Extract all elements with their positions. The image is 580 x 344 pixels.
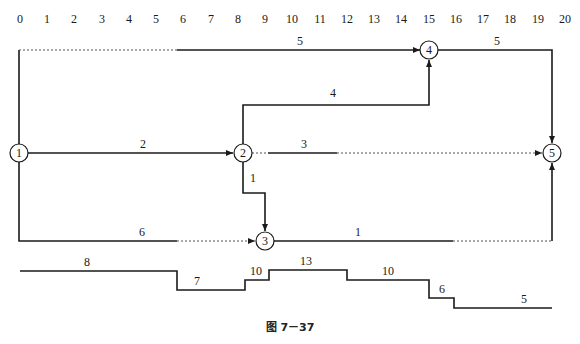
tick-4: 4 xyxy=(126,12,132,26)
activity-1-3-label: 6 xyxy=(139,225,145,239)
activity-1-2: 2 xyxy=(28,137,233,153)
activity-2-3: 1 xyxy=(243,162,265,231)
tick-10: 10 xyxy=(286,12,298,26)
activity-1-4: 5 xyxy=(19,34,420,145)
tick-17: 17 xyxy=(477,12,489,26)
node-5: 5 xyxy=(543,144,561,162)
activity-2-3-label: 1 xyxy=(250,171,256,185)
resource-label-3: 13 xyxy=(300,254,312,268)
time-scaled-network-diagram: 0 1 2 3 4 5 6 7 8 9 10 11 12 13 14 15 16… xyxy=(0,0,580,344)
activity-4-5: 5 xyxy=(438,34,552,143)
tick-6: 6 xyxy=(180,12,186,26)
tick-14: 14 xyxy=(395,12,407,26)
tick-13: 13 xyxy=(368,12,380,26)
tick-20: 20 xyxy=(559,12,571,26)
activity-2-4-arrow xyxy=(243,60,429,144)
resource-profile: 8 7 10 13 10 6 5 xyxy=(20,254,552,308)
node-1: 1 xyxy=(10,144,28,162)
activity-1-3: 6 xyxy=(19,162,255,241)
node-3: 3 xyxy=(256,232,274,250)
timeline-scale: 0 1 2 3 4 5 6 7 8 9 10 11 12 13 14 15 16… xyxy=(17,12,571,26)
activity-4-5-label: 5 xyxy=(494,34,500,48)
activity-1-4-label: 5 xyxy=(297,34,303,48)
tick-3: 3 xyxy=(99,12,105,26)
tick-16: 16 xyxy=(450,12,462,26)
tick-15: 15 xyxy=(423,12,435,26)
activity-3-5-label: 1 xyxy=(355,225,361,239)
resource-label-1: 7 xyxy=(194,274,200,288)
activity-3-5: 1 xyxy=(274,163,552,241)
tick-18: 18 xyxy=(504,12,516,26)
resource-label-2: 10 xyxy=(250,264,262,278)
node-2-label: 2 xyxy=(240,146,246,160)
tick-7: 7 xyxy=(208,12,214,26)
tick-9: 9 xyxy=(262,12,268,26)
node-1-label: 1 xyxy=(16,146,22,160)
tick-11: 11 xyxy=(314,12,326,26)
resource-label-6: 5 xyxy=(521,292,527,306)
tick-1: 1 xyxy=(44,12,50,26)
node-2: 2 xyxy=(234,144,252,162)
node-4: 4 xyxy=(420,41,438,59)
node-4-label: 4 xyxy=(426,43,432,57)
tick-19: 19 xyxy=(532,12,544,26)
resource-label-5: 6 xyxy=(439,282,445,296)
tick-5: 5 xyxy=(153,12,159,26)
activity-4-5-arrow xyxy=(438,50,552,143)
activity-2-5: 3 xyxy=(252,137,542,153)
activity-1-3-work xyxy=(19,162,177,241)
activity-2-5-label: 3 xyxy=(301,137,307,151)
node-3-label: 3 xyxy=(262,234,268,248)
activity-2-4-label: 4 xyxy=(330,86,336,100)
resource-label-4: 10 xyxy=(382,264,394,278)
tick-8: 8 xyxy=(235,12,241,26)
activity-2-4: 4 xyxy=(243,60,429,144)
resource-step-line xyxy=(20,270,552,308)
activity-1-2-label: 2 xyxy=(140,137,146,151)
figure-caption: 图 7－37 xyxy=(0,318,580,334)
tick-0: 0 xyxy=(17,12,23,26)
tick-12: 12 xyxy=(341,12,353,26)
resource-label-0: 8 xyxy=(84,255,90,269)
node-5-label: 5 xyxy=(549,146,555,160)
tick-2: 2 xyxy=(71,12,77,26)
